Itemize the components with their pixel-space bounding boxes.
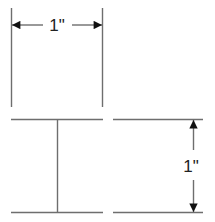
- height-dimension-label: 1": [183, 157, 199, 176]
- dimension-diagram: 1" 1": [0, 0, 215, 222]
- right-height-figure: 1": [113, 120, 203, 213]
- width-dimension-label: 1": [49, 16, 65, 35]
- i-beam-figure: [11, 120, 103, 213]
- top-width-figure: 1": [12, 8, 103, 107]
